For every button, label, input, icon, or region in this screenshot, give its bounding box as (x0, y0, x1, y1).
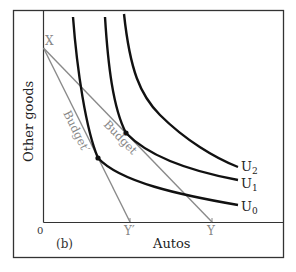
point-x-label: X (45, 34, 54, 48)
y-axis-label: Other goods (21, 81, 36, 162)
point-y-label: Y (206, 224, 216, 238)
indifference-curve-u1 (105, 17, 238, 180)
u0-label: U0 (241, 199, 258, 216)
tangency-point-budget-prime (95, 155, 100, 160)
u2-label: U2 (241, 159, 258, 176)
origin-label: 0 (37, 225, 43, 236)
figure-frame (14, 11, 284, 258)
u1-label: U1 (241, 176, 258, 193)
consumer-choice-diagram: X 0 Y′ Y (b) Autos Other goods Budget Bu… (0, 0, 296, 272)
point-y-prime-label: Y′ (123, 224, 135, 238)
panel-label: (b) (56, 237, 73, 251)
budget-prime-line-label: Budget′ (60, 108, 93, 155)
x-axis-label: Autos (152, 236, 190, 251)
indifference-curve-u2 (124, 14, 238, 167)
